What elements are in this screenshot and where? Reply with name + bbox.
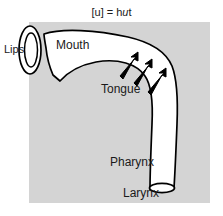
label-larynx: Larynx <box>123 187 159 199</box>
figure-title: [u] = hut <box>0 7 223 18</box>
lips-inner-ellipse <box>25 33 38 67</box>
label-tongue: Tongue <box>101 83 140 95</box>
title-suffix: t <box>128 6 131 18</box>
title-prefix: [u] = h <box>91 6 122 18</box>
vocal-tract-drawing <box>0 0 223 216</box>
label-mouth: Mouth <box>56 39 89 51</box>
label-pharynx: Pharynx <box>110 156 154 168</box>
vocal-tract-figure: [u] = hut Lips Mouth Tongue Pharynx Lary… <box>0 0 223 216</box>
label-lips: Lips <box>4 44 24 55</box>
